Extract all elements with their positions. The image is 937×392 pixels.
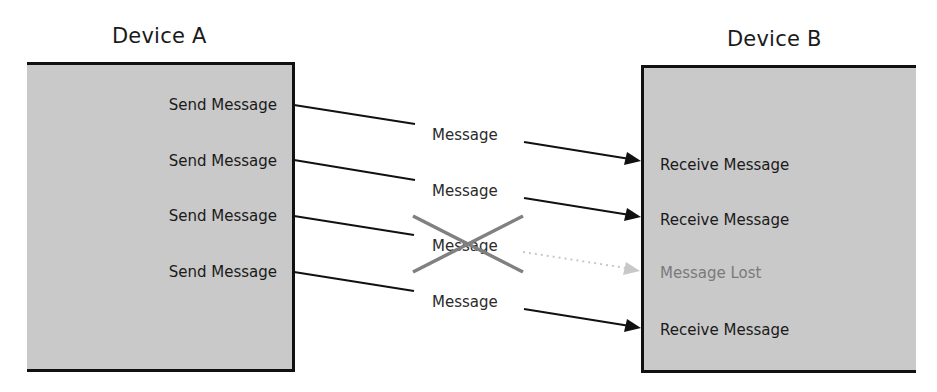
arrow-icon (524, 309, 641, 332)
send-line (294, 272, 414, 291)
send-line (294, 160, 415, 180)
send-line (294, 105, 415, 124)
arrow-icon (524, 142, 641, 165)
lost-arrow-icon (523, 252, 640, 275)
send-line (294, 216, 414, 235)
cross-out-icon (413, 216, 523, 272)
arrow-icon (524, 198, 641, 221)
connector-layer (0, 0, 937, 392)
